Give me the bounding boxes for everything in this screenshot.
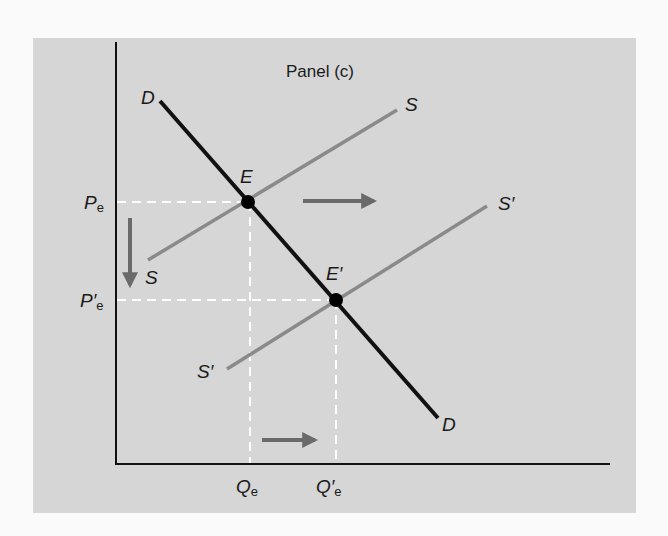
price-eq-new-sub: e bbox=[96, 298, 103, 313]
supply-new-label-top: S′ bbox=[498, 194, 514, 213]
demand-label-top: D bbox=[141, 88, 155, 107]
demand-label-bottom: D bbox=[442, 415, 456, 434]
supply-curve-shifted bbox=[227, 206, 487, 369]
price-eq-label: Pe bbox=[84, 193, 104, 214]
equilibrium-point-new bbox=[329, 293, 343, 307]
price-eq-new-label: P′e bbox=[80, 291, 103, 312]
qty-eq-label: Qe bbox=[236, 477, 258, 498]
qty-eq-sub: e bbox=[251, 484, 258, 499]
equilibrium-label: E bbox=[240, 167, 253, 186]
price-eq-new-letter: P′ bbox=[80, 290, 96, 311]
qty-eq-new-sub: e bbox=[334, 484, 341, 499]
supply-label-top: S bbox=[405, 95, 418, 114]
qty-eq-new-label: Q′e bbox=[316, 477, 342, 498]
qty-eq-new-letter: Q′ bbox=[316, 476, 334, 497]
equilibrium-point bbox=[241, 195, 255, 209]
equilibrium-new-label: E′ bbox=[326, 264, 342, 283]
price-eq-letter: P bbox=[84, 192, 97, 213]
supply-label-bottom: S bbox=[145, 268, 158, 287]
qty-eq-letter: Q bbox=[236, 476, 251, 497]
panel-title: Panel (c) bbox=[286, 63, 354, 80]
supply-new-label-bottom: S′ bbox=[197, 362, 213, 381]
price-eq-sub: e bbox=[97, 200, 104, 215]
